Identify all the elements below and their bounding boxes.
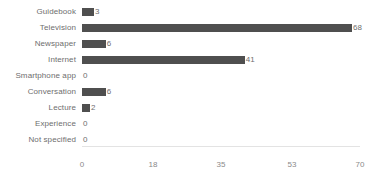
x-tick-label: 0: [80, 160, 84, 170]
x-tick-label: 35: [217, 160, 226, 170]
bar: [82, 24, 352, 32]
bar-group: 41: [82, 52, 255, 68]
bar-row: Newspaper 6: [0, 36, 374, 52]
bar-group: 0: [82, 68, 87, 84]
value-label: 0: [83, 68, 87, 84]
bar-row: Conversation 6: [0, 84, 374, 100]
bar-group: 6: [82, 84, 111, 100]
x-axis-tick-labels: 0 18 35 53 70: [0, 160, 374, 174]
category-label: Lecture: [0, 100, 76, 116]
bar-group: 0: [82, 116, 87, 132]
value-label: 68: [353, 20, 362, 36]
value-label: 2: [91, 100, 95, 116]
category-label: Internet: [0, 52, 76, 68]
value-label: 0: [83, 116, 87, 132]
bar: [82, 56, 245, 64]
bar-row: Internet 41: [0, 52, 374, 68]
x-tick-label: 70: [356, 160, 365, 170]
category-label: Newspaper: [0, 36, 76, 52]
category-label: Experience: [0, 116, 76, 132]
category-label: Guidebook: [0, 4, 76, 20]
bar-row: Lecture 2: [0, 100, 374, 116]
x-tick-label: 18: [149, 160, 158, 170]
bar-group: 3: [82, 4, 99, 20]
bar-row: Television 68: [0, 20, 374, 36]
value-label: 41: [246, 52, 255, 68]
bar-group: 68: [82, 20, 362, 36]
category-label: Conversation: [0, 84, 76, 100]
bar: [82, 8, 94, 16]
value-label: 3: [95, 4, 99, 20]
plot-area: Guidebook 3 Television 68 Newspaper 6 In…: [0, 0, 374, 146]
category-label: Television: [0, 20, 76, 36]
category-label: Not specified: [0, 132, 76, 148]
bar-row: Smartphone app 0: [0, 68, 374, 84]
x-tick-label: 53: [288, 160, 297, 170]
bar-group: 6: [82, 36, 111, 52]
bar: [82, 88, 106, 96]
bar: [82, 40, 106, 48]
value-label: 6: [107, 84, 111, 100]
horizontal-bar-chart: Guidebook 3 Television 68 Newspaper 6 In…: [0, 0, 374, 185]
bar-row: Experience 0: [0, 116, 374, 132]
bar-row: Guidebook 3: [0, 4, 374, 20]
category-label: Smartphone app: [0, 68, 76, 84]
x-axis-line: [82, 146, 360, 147]
bar-group: 2: [82, 100, 95, 116]
bar: [82, 104, 90, 112]
value-label: 6: [107, 36, 111, 52]
